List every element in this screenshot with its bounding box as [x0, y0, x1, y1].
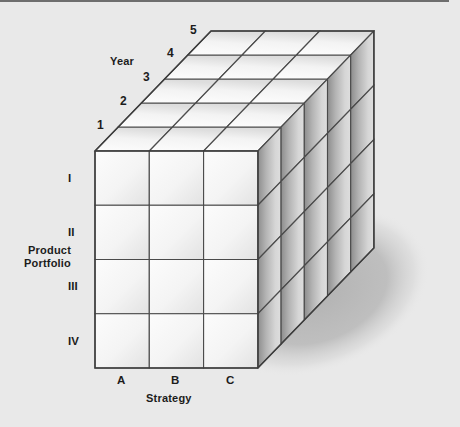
front-face-cell-c0-r2: [95, 260, 149, 314]
year-tick-1: 1: [97, 118, 104, 132]
product-portfolio-title-line1: Product: [24, 244, 71, 257]
portfolio-tick-III: III: [68, 280, 78, 292]
front-face-cell-c2-r3: [204, 314, 258, 368]
year-tick-4: 4: [167, 46, 174, 60]
front-face-cell-c0-r3: [95, 314, 149, 368]
front-face-cell-c0-r0: [95, 151, 149, 205]
front-face-cell-c2-r0: [204, 151, 258, 205]
strategy-tick-A: A: [117, 374, 125, 386]
front-face-cell-c1-r0: [149, 151, 203, 205]
strategy-tick-C: C: [226, 374, 234, 386]
front-face-cell-c1-r2: [149, 260, 203, 314]
front-face-cell-c2-r2: [204, 260, 258, 314]
portfolio-tick-I: I: [68, 172, 71, 184]
front-face-cell-c0-r1: [95, 205, 149, 259]
cube-diagram-svg: [0, 0, 460, 427]
front-face-cell-c1-r1: [149, 205, 203, 259]
front-face-cell-c2-r1: [204, 205, 258, 259]
year-tick-5: 5: [190, 23, 197, 37]
year-tick-2: 2: [120, 94, 127, 108]
front-face-cell-c1-r3: [149, 314, 203, 368]
product-portfolio-title-line2: Portfolio: [24, 257, 71, 270]
year-axis-title: Year: [110, 55, 134, 67]
year-tick-3: 3: [143, 70, 150, 84]
product-portfolio-axis-title: Product Portfolio: [24, 244, 71, 270]
strategy-axis-title: Strategy: [146, 392, 192, 404]
portfolio-tick-IV: IV: [68, 335, 79, 347]
portfolio-tick-II: II: [68, 226, 74, 238]
strategy-tick-B: B: [171, 374, 179, 386]
figure-container: Year Product Portfolio Strategy 12345III…: [0, 0, 460, 427]
